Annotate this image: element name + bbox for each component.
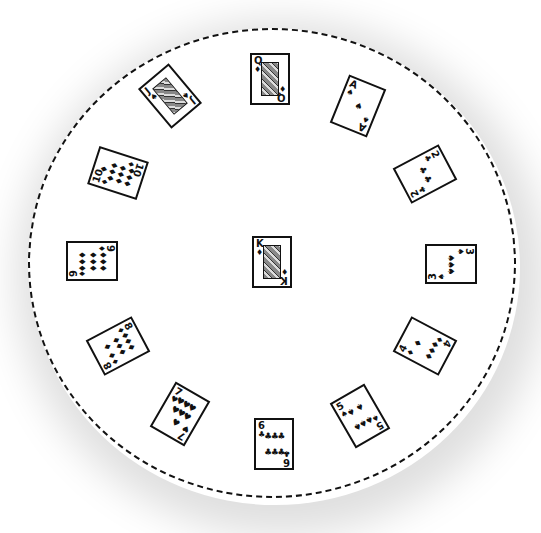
card-center-k-of-diamonds[interactable]: K♦K♦	[252, 236, 292, 288]
card-pips: ♠♠♠♠♠	[343, 397, 376, 435]
spades-pip-icon: ♠	[355, 401, 365, 412]
face-card-portrait-icon	[263, 245, 281, 279]
card-12-q-of-diamonds[interactable]: Q♦Q♦	[250, 53, 290, 105]
clubs-pip-icon: ♣	[264, 448, 271, 457]
clubs-pip-icon: ♣	[417, 165, 428, 175]
diamonds-suit-icon: ♦	[279, 84, 286, 92]
clubs-pip-icon: ♣	[422, 173, 433, 183]
card-pips: ♠♠♠	[435, 254, 467, 274]
card-6-6-of-clubs[interactable]: 6♣6♣♣♣♣♣♣♣	[254, 418, 294, 470]
clubs-pip-icon: ♣	[271, 448, 278, 457]
card-pips: ♦♦♦♦♦♦♦♦♦	[76, 251, 108, 271]
clubs-pip-icon: ♣	[271, 432, 278, 441]
spades-pip-icon: ♠	[447, 261, 456, 268]
spades-pip-icon: ♠	[353, 101, 362, 112]
diamonds-pip-icon: ♦	[77, 264, 86, 271]
card-rank-label: K	[280, 275, 288, 285]
card-9-9-of-diamonds[interactable]: 9♦9♦♦♦♦♦♦♦♦♦♦	[66, 241, 118, 281]
diamonds-pip-icon: ♦	[88, 251, 97, 258]
face-card-portrait-icon	[261, 62, 279, 96]
spades-pip-icon: ♠	[447, 254, 456, 261]
hearts-pip-icon: ♥	[170, 418, 180, 429]
diamonds-pip-icon: ♦	[98, 164, 109, 173]
diamonds-pip-icon: ♦	[88, 264, 97, 271]
clubs-pip-icon: ♣	[277, 432, 284, 441]
diamonds-pip-icon: ♦	[98, 264, 107, 271]
diamonds-pip-icon: ♦	[412, 337, 423, 347]
card-3-3-of-spades[interactable]: 3♠3♠♠♠♠	[425, 244, 477, 284]
diamonds-pip-icon: ♦	[77, 251, 86, 258]
card-rank-label: 6	[283, 457, 290, 467]
diamonds-pip-icon: ♦	[101, 342, 112, 352]
clubs-pip-icon: ♣	[264, 432, 271, 441]
face-card-portrait-icon	[152, 77, 188, 115]
clubs-pip-icon: ♣	[277, 448, 284, 457]
spades-pip-icon: ♠	[447, 267, 456, 274]
diamonds-pip-icon: ♦	[98, 258, 107, 265]
diamonds-pip-icon: ♦	[105, 350, 116, 360]
diamonds-pip-icon: ♦	[88, 258, 97, 265]
diamonds-pip-icon: ♦	[77, 258, 86, 265]
diamonds-suit-icon: ♦	[281, 267, 288, 275]
diamonds-pip-icon: ♦	[98, 251, 107, 258]
card-pips: ♣♣♣♣♣♣	[264, 428, 284, 460]
